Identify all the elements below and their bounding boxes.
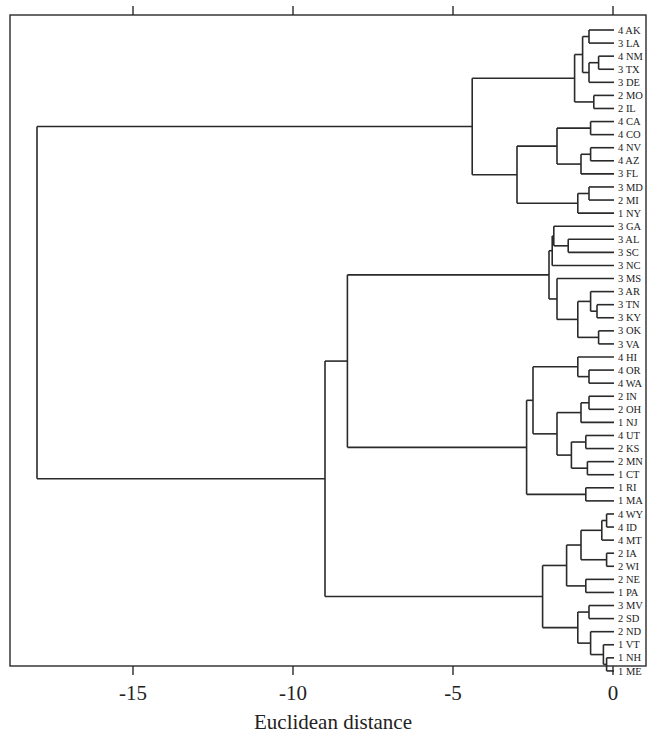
x-tick-label: -5 (444, 681, 462, 705)
leaf-label: 3 SC (618, 247, 639, 258)
leaf-label: 2 MI (618, 195, 639, 206)
leaf-label: 4 HI (618, 352, 637, 363)
leaf-label: 2 MN (618, 456, 643, 467)
leaf-label: 4 WY (618, 509, 644, 520)
leaf-label: 3 KY (618, 312, 641, 323)
leaf-label: 4 MT (618, 535, 642, 546)
leaf-label: 3 MD (618, 182, 643, 193)
leaf-label: 1 VT (618, 639, 640, 650)
leaf-label: 2 ND (618, 626, 641, 637)
leaf-label: 1 MA (618, 495, 643, 506)
leaf-label: 4 OR (618, 365, 640, 376)
leaf-label: 2 MO (618, 90, 643, 101)
x-axis-tick-labels: -15-10-50 (119, 681, 618, 705)
x-tick-label: 0 (608, 681, 619, 705)
leaf-label: 2 KS (618, 443, 639, 454)
leaf-label: 4 CA (618, 116, 641, 127)
leaf-label: 1 NH (618, 652, 641, 663)
leaf-label: 2 IA (618, 548, 637, 559)
leaf-label: 4 WA (618, 378, 642, 389)
top-axis-ticks (133, 6, 613, 15)
leaf-label: 4 NM (618, 51, 643, 62)
leaf-label: 3 NC (618, 260, 640, 271)
leaf-label: 3 FL (618, 168, 638, 179)
leaf-label: 1 NJ (618, 417, 638, 428)
x-tick-label: -10 (279, 681, 307, 705)
leaf-label: 3 TX (618, 64, 640, 75)
leaf-labels: 4 AK3 LA4 NM3 TX3 DE2 MO2 IL4 CA4 CO4 NV… (618, 25, 644, 677)
x-axis-title: Euclidean distance (254, 710, 412, 734)
dendrogram-chart: -15-10-50 4 AK3 LA4 NM3 TX3 DE2 MO2 IL4 … (0, 0, 655, 740)
leaf-label: 3 LA (618, 38, 640, 49)
leaf-label: 3 DE (618, 77, 640, 88)
leaf-label: 3 GA (618, 221, 641, 232)
leaf-label: 1 RI (618, 482, 637, 493)
leaf-label: 3 VA (618, 339, 640, 350)
leaf-label: 3 MV (618, 600, 643, 611)
plot-frame (10, 15, 646, 666)
leaf-label: 4 CO (618, 129, 641, 140)
leaf-label: 1 PA (618, 587, 639, 598)
leaf-label: 3 AR (618, 286, 640, 297)
leaf-label: 4 ID (618, 522, 637, 533)
dendrogram-branches (37, 30, 614, 671)
leaf-label: 4 AK (618, 25, 641, 36)
leaf-label: 2 OH (618, 404, 641, 415)
leaf-label: 3 AL (618, 234, 639, 245)
leaf-label: 2 IL (618, 103, 636, 114)
leaf-label: 2 WI (618, 561, 640, 572)
x-tick-label: -15 (119, 681, 147, 705)
leaf-label: 1 CT (618, 469, 640, 480)
leaf-label: 4 NV (618, 142, 641, 153)
leaf-label: 4 AZ (618, 155, 639, 166)
leaf-label: 1 ME (618, 666, 642, 677)
leaf-label: 1 NY (618, 208, 641, 219)
leaf-label: 3 OK (618, 325, 641, 336)
leaf-label: 3 MS (618, 273, 641, 284)
leaf-label: 3 TN (618, 299, 640, 310)
bottom-axis-ticks (133, 666, 613, 675)
leaf-label: 2 NE (618, 574, 640, 585)
leaf-label: 2 IN (618, 391, 637, 402)
leaf-label: 4 UT (618, 430, 640, 441)
leaf-label: 2 SD (618, 613, 640, 624)
